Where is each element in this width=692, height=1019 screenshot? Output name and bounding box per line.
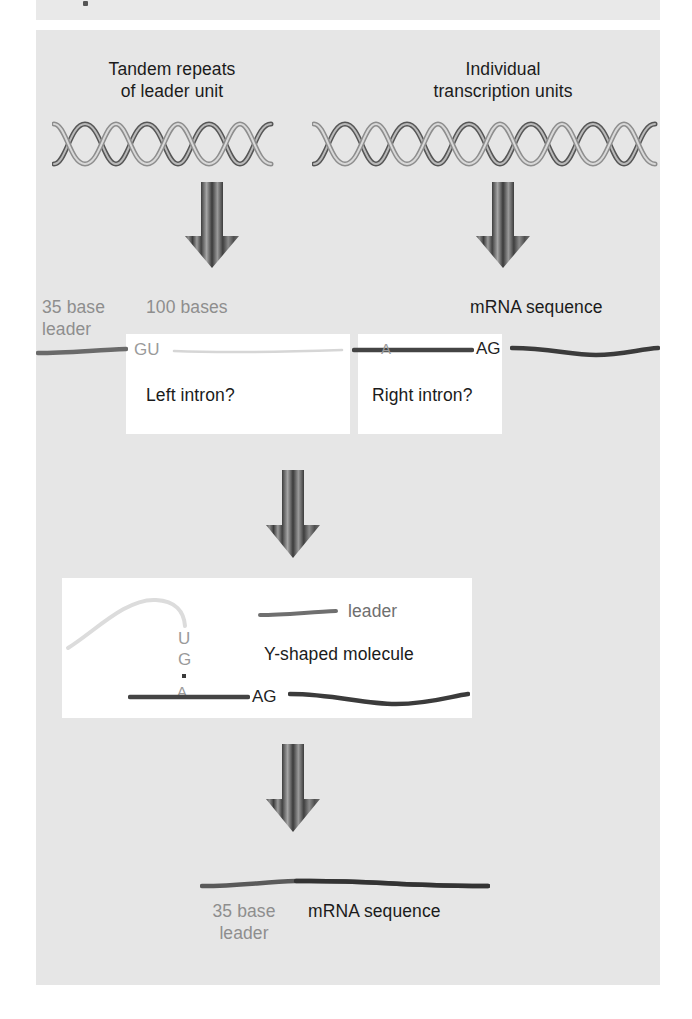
strand-leader-branch-curve [64, 586, 194, 656]
branch-point-a-top: A [381, 340, 391, 357]
branch-base-g: G [178, 651, 191, 668]
strand-y-backbone [128, 686, 250, 710]
donor-site-gu: GU [134, 341, 160, 358]
y-shaped-molecule-title: Y-shaped molecule [264, 643, 414, 665]
strand-right-intron [352, 338, 474, 364]
previous-panel-sliver [36, 0, 660, 20]
legend-leader-line [258, 606, 338, 624]
leader-top-line1: 35 base [42, 296, 122, 318]
strand-mrna-top [510, 336, 660, 366]
strand-left-intron [172, 342, 344, 364]
dna-double-helix-right [312, 112, 662, 178]
acceptor-site-ag-top: AG [476, 340, 501, 357]
arrow-transcription-right [472, 180, 534, 274]
acceptor-site-ag-y: AG [252, 688, 277, 705]
label-100-bases: 100 bases [146, 296, 228, 318]
branch-base-u: U [178, 630, 190, 647]
strand-leader-segment [36, 340, 128, 364]
leader-bottom-line2: leader [196, 922, 292, 944]
heading-tandem-repeats: Tandem repeats of leader unit [72, 58, 272, 102]
dna-double-helix-left [52, 112, 282, 178]
label-35-base-leader-bottom: 35 base leader [196, 900, 292, 944]
panel-text-remnant [83, 1, 88, 6]
legend-leader-label: leader [348, 600, 397, 622]
heading-right-line2: transcription units [388, 80, 618, 102]
heading-left-line2: of leader unit [72, 80, 272, 102]
left-intron-question: Left intron? [146, 384, 235, 406]
label-mrna-sequence-top: mRNA sequence [470, 296, 603, 318]
leader-top-line2: leader [42, 318, 122, 340]
heading-right-line1: Individual [388, 58, 618, 80]
arrow-splicing [262, 468, 324, 564]
bond-dot [182, 674, 186, 678]
label-35-base-leader-top: 35 base leader [42, 296, 122, 340]
heading-transcription-units: Individual transcription units [388, 58, 618, 102]
heading-left-line1: Tandem repeats [72, 58, 272, 80]
label-mrna-sequence-bottom: mRNA sequence [308, 900, 441, 922]
strand-final-mrna [200, 874, 490, 902]
right-intron-question: Right intron? [372, 384, 473, 406]
arrow-ligation [262, 742, 324, 838]
leader-bottom-line1: 35 base [196, 900, 292, 922]
figure-root: Tandem repeats of leader unit Individual… [0, 0, 692, 1019]
arrow-transcription-left [181, 180, 243, 274]
strand-mrna-y [288, 684, 470, 714]
